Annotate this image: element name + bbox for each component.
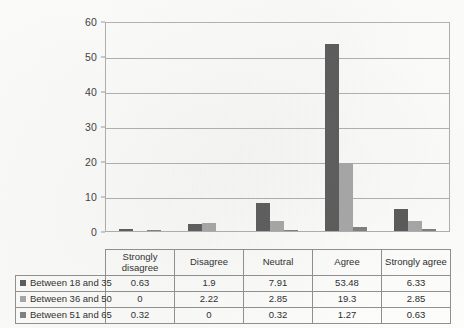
legend-color-swatch xyxy=(20,296,26,302)
table-column-header: Agree xyxy=(313,250,382,276)
table-cell: 0 xyxy=(106,292,175,308)
bar xyxy=(256,203,270,231)
legend-label: Between 51 and 65 xyxy=(30,309,112,320)
legend-entry: Between 51 and 65 xyxy=(16,308,106,324)
bar-group xyxy=(175,23,244,231)
bar-group xyxy=(312,23,381,231)
bar xyxy=(353,227,367,231)
bar xyxy=(284,230,298,231)
bar xyxy=(339,163,353,231)
table-cell: 0.32 xyxy=(244,308,313,324)
legend-label: Between 36 and 50 xyxy=(30,293,112,304)
y-axis-tick-label: 0 xyxy=(91,226,97,238)
bar-group xyxy=(380,23,449,231)
y-axis-tick-label: 30 xyxy=(85,121,97,133)
table-body: Between 18 and 350.631.97.9153.486.33Bet… xyxy=(16,276,451,324)
chart-plot-area xyxy=(105,22,450,232)
y-axis-tick-label: 60 xyxy=(85,16,97,28)
table-column-header: Disagree xyxy=(175,250,244,276)
bar-groups xyxy=(106,23,449,231)
y-axis-tick-label: 20 xyxy=(85,156,97,168)
table-corner-cell xyxy=(16,250,106,276)
legend-color-swatch xyxy=(20,280,26,286)
table-cell: 0.63 xyxy=(106,276,175,292)
table-cell: 6.33 xyxy=(382,276,451,292)
bar xyxy=(202,223,216,231)
table-column-header: Strongly agree xyxy=(382,250,451,276)
table-cell: 1.27 xyxy=(313,308,382,324)
table-cell: 0.63 xyxy=(382,308,451,324)
legend-entry: Between 18 and 35 xyxy=(16,276,106,292)
data-table: Strongly disagreeDisagreeNeutralAgreeStr… xyxy=(15,249,451,324)
bar xyxy=(270,221,284,231)
table-header: Strongly disagreeDisagreeNeutralAgreeStr… xyxy=(16,250,451,276)
bar xyxy=(188,224,202,231)
bar-chart-figure: 0102030405060 Strongly disagreeDisagreeN… xyxy=(0,0,464,328)
y-axis-tick-label: 50 xyxy=(85,51,97,63)
y-axis-tick-label: 10 xyxy=(85,191,97,203)
table-column-header: Strongly disagree xyxy=(106,250,175,276)
bar xyxy=(394,209,408,231)
table-cell: 53.48 xyxy=(313,276,382,292)
table-cell: 2.85 xyxy=(382,292,451,308)
table-row: Between 51 and 650.3200.321.270.63 xyxy=(16,308,451,324)
table-cell: 1.9 xyxy=(175,276,244,292)
bar-group xyxy=(243,23,312,231)
table-cell: 2.22 xyxy=(175,292,244,308)
bar xyxy=(119,229,133,231)
table-row: Between 36 and 5002.222.8519.32.85 xyxy=(16,292,451,308)
table-cell: 0 xyxy=(175,308,244,324)
bar xyxy=(325,44,339,231)
table-row: Between 18 and 350.631.97.9153.486.33 xyxy=(16,276,451,292)
bar-group xyxy=(106,23,175,231)
legend-entry: Between 36 and 50 xyxy=(16,292,106,308)
y-axis-tick-label: 40 xyxy=(85,86,97,98)
y-axis: 0102030405060 xyxy=(0,22,105,232)
table-cell: 0.32 xyxy=(106,308,175,324)
table-header-row: Strongly disagreeDisagreeNeutralAgreeStr… xyxy=(16,250,451,276)
legend-label: Between 18 and 35 xyxy=(30,277,112,288)
bar xyxy=(147,230,161,231)
bar xyxy=(408,221,422,231)
table-cell: 7.91 xyxy=(244,276,313,292)
bar xyxy=(422,229,436,231)
legend-color-swatch xyxy=(20,312,26,318)
table-cell: 19.3 xyxy=(313,292,382,308)
table-cell: 2.85 xyxy=(244,292,313,308)
table-column-header: Neutral xyxy=(244,250,313,276)
